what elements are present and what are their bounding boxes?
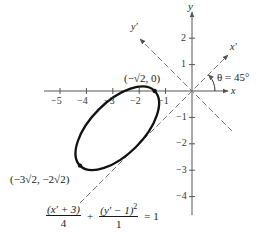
vertex-point-top <box>153 89 157 93</box>
x-tick-label: −2 <box>130 96 141 106</box>
vertex-point-bottom <box>78 163 82 167</box>
y-tick-label: 1 <box>181 59 186 69</box>
y-tick-label: −1 <box>176 112 187 122</box>
angle-label: θ = 45° <box>217 72 249 83</box>
x-tick-label: −3 <box>104 96 115 106</box>
vertex-label-top: (−√2, 0) <box>124 73 160 84</box>
x-prime-axis-label: x′ <box>230 42 237 52</box>
term-1-numerator: (x′ + 3) <box>46 203 81 216</box>
x-tick-label: −1 <box>158 96 169 106</box>
x-tick-label: −4 <box>77 96 88 106</box>
y-axis-label: y <box>188 1 193 12</box>
term-1-denominator: 4 <box>61 216 67 229</box>
equation-rhs: = 1 <box>144 210 158 222</box>
ellipse-equation: (x′ + 3) 4 + (y′ − 1)2 1 = 1 <box>46 202 159 230</box>
term-2-numerator: (y′ − 1)2 <box>99 202 138 217</box>
y-tick-label: −3 <box>176 165 187 175</box>
y-tick-label: 2 <box>181 33 186 43</box>
term-2-denominator: 1 <box>116 217 122 230</box>
term-2-exponent: 2 <box>133 202 137 211</box>
y-tick-label: −4 <box>176 191 187 201</box>
equation-term-1: (x′ + 3) 4 <box>46 203 81 229</box>
vertex-label-bottom: (−3√2, −2√2) <box>10 174 69 185</box>
equation-term-2: (y′ − 1)2 1 <box>99 202 138 230</box>
angle-arc <box>208 75 215 91</box>
plus-sign: + <box>87 210 93 222</box>
x-tick-label: −5 <box>51 96 62 106</box>
y-prime-axis-label: y′ <box>131 22 138 32</box>
rotated-ellipse <box>61 72 173 184</box>
term-2-base: (y′ − 1) <box>100 204 133 216</box>
y-tick-label: −2 <box>176 138 187 148</box>
x-axis-label: x <box>231 86 235 96</box>
